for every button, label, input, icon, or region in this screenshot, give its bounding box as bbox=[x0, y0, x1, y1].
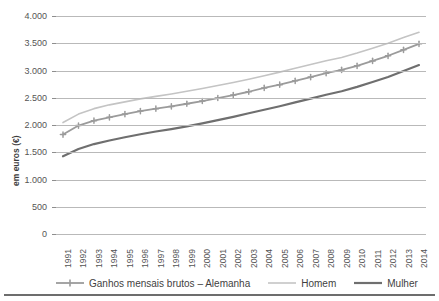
legend-label: Homem bbox=[301, 278, 336, 289]
y-axis-tick-label: 1.500 bbox=[8, 147, 52, 157]
series-marker bbox=[370, 58, 375, 63]
y-axis-tick-mark bbox=[52, 98, 56, 99]
x-axis-tick-label: 2000 bbox=[196, 236, 208, 270]
x-axis-tick-label: 2012 bbox=[382, 236, 394, 270]
x-axis-tick-label: 2008 bbox=[320, 236, 332, 270]
series-marker bbox=[200, 98, 205, 103]
gridline bbox=[56, 43, 426, 44]
legend-label: Ganhos mensais brutos – Alemanha bbox=[89, 278, 250, 289]
x-axis-tick-label: 2011 bbox=[367, 236, 379, 270]
x-axis-tick-label: 1996 bbox=[134, 236, 146, 270]
y-axis-tick-label: 3.000 bbox=[8, 66, 52, 76]
y-axis-tick-label: 4.000 bbox=[8, 11, 52, 21]
y-axis-tick-label: 3.500 bbox=[8, 38, 52, 48]
series-marker bbox=[138, 109, 143, 114]
y-axis-tick-mark bbox=[52, 125, 56, 126]
y-axis-tick-mark bbox=[52, 152, 56, 153]
plot-area bbox=[56, 16, 426, 234]
legend-swatch bbox=[268, 278, 296, 288]
series-line bbox=[63, 65, 419, 156]
x-axis-tick-label: 2003 bbox=[243, 236, 255, 270]
y-axis-tick-mark bbox=[52, 43, 56, 44]
x-axis-tick-label: 1993 bbox=[88, 236, 100, 270]
bottom-divider bbox=[4, 294, 435, 296]
gridline bbox=[56, 234, 426, 235]
series-line bbox=[63, 32, 419, 122]
series-marker bbox=[277, 82, 282, 87]
x-axis-tick-label: 1991 bbox=[57, 236, 69, 270]
chart-legend: Ganhos mensais brutos – AlemanhaHomemMul… bbox=[56, 275, 426, 291]
legend-swatch bbox=[354, 278, 382, 288]
gridline bbox=[56, 207, 426, 208]
legend-item[interactable]: Ganhos mensais brutos – Alemanha bbox=[56, 278, 250, 289]
series-marker bbox=[107, 115, 112, 120]
x-axis-tick-label: 2002 bbox=[227, 236, 239, 270]
y-axis-tick-label: 2.000 bbox=[8, 120, 52, 130]
x-axis-tick-labels: 1991199219931994199519961997199819992000… bbox=[56, 236, 426, 272]
x-axis-tick-label: 1998 bbox=[165, 236, 177, 270]
series-marker bbox=[122, 112, 127, 117]
x-axis-tick-label: 1999 bbox=[181, 236, 193, 270]
series-marker bbox=[308, 74, 313, 79]
chart-figure: em euros (€) 4.0003.5003.0002.5002.0001.… bbox=[0, 0, 439, 301]
series-marker bbox=[91, 118, 96, 123]
series-marker bbox=[184, 101, 189, 106]
x-axis-tick-label: 2014 bbox=[413, 236, 425, 270]
y-axis-tick-label: 2.500 bbox=[8, 93, 52, 103]
y-axis-tick-label: 1.000 bbox=[8, 175, 52, 185]
x-axis-tick-label: 2004 bbox=[258, 236, 270, 270]
x-axis-tick-label: 1992 bbox=[72, 236, 84, 270]
gridline bbox=[56, 125, 426, 126]
series-marker bbox=[293, 78, 298, 83]
y-axis-tick-label: 0 bbox=[8, 229, 52, 239]
gridline bbox=[56, 180, 426, 181]
y-axis-tick-label: 500 bbox=[8, 202, 52, 212]
legend-item[interactable]: Mulher bbox=[354, 278, 418, 289]
y-axis-tick-mark bbox=[52, 16, 56, 17]
legend-item[interactable]: Homem bbox=[268, 278, 336, 289]
x-axis-tick-label-text: 2014 bbox=[419, 249, 429, 268]
x-axis-tick-label: 2007 bbox=[305, 236, 317, 270]
gridline bbox=[56, 71, 426, 72]
x-axis-tick-label: 1997 bbox=[150, 236, 162, 270]
legend-swatch bbox=[56, 278, 84, 288]
series-marker bbox=[246, 89, 251, 94]
y-axis-tick-labels: 4.0003.5003.0002.5002.0001.5001.0005000 bbox=[8, 0, 52, 301]
gridline bbox=[56, 16, 426, 17]
x-axis-tick-label: 1994 bbox=[103, 236, 115, 270]
series-marker bbox=[153, 106, 158, 111]
y-axis-tick-mark bbox=[52, 180, 56, 181]
x-axis-tick-label: 2013 bbox=[398, 236, 410, 270]
series-marker bbox=[385, 53, 390, 58]
x-axis-tick-label: 2010 bbox=[351, 236, 363, 270]
gridline bbox=[56, 152, 426, 153]
series-marker bbox=[169, 104, 174, 109]
gridline bbox=[56, 98, 426, 99]
series-marker bbox=[401, 47, 406, 52]
x-axis-tick-label: 2005 bbox=[274, 236, 286, 270]
y-axis-tick-mark bbox=[52, 207, 56, 208]
x-axis-tick-label: 1995 bbox=[119, 236, 131, 270]
y-axis-tick-mark bbox=[52, 234, 56, 235]
series-marker bbox=[262, 85, 267, 90]
x-axis-tick-label: 2001 bbox=[212, 236, 224, 270]
legend-label: Mulher bbox=[387, 278, 418, 289]
x-axis-tick-label: 2009 bbox=[336, 236, 348, 270]
y-axis-tick-mark bbox=[52, 71, 56, 72]
series-line bbox=[63, 44, 419, 135]
x-axis-tick-label: 2006 bbox=[289, 236, 301, 270]
series-marker bbox=[354, 63, 359, 68]
